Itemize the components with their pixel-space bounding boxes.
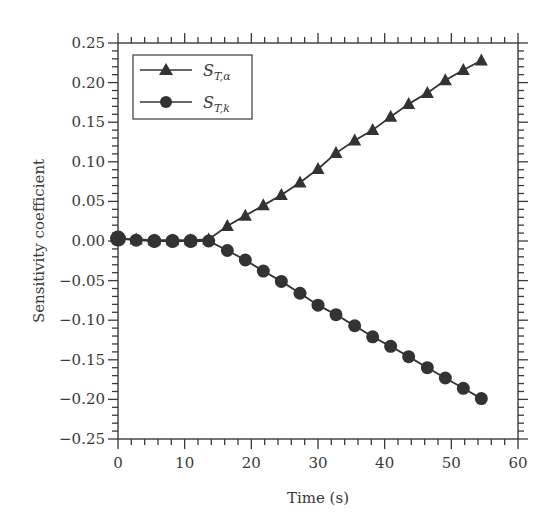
circle-marker-icon bbox=[221, 244, 234, 257]
y-tick-label: −0.20 bbox=[59, 390, 105, 408]
circle-marker-icon bbox=[330, 308, 343, 321]
y-tick-labels: −0.25−0.20−0.15−0.10−0.050.000.050.100.1… bbox=[59, 34, 105, 448]
triangle-marker-icon bbox=[366, 123, 379, 135]
x-tick-labels: 0102030405060 bbox=[113, 454, 527, 472]
triangle-marker-icon bbox=[457, 63, 470, 75]
markers-k bbox=[112, 232, 488, 405]
triangle-marker-icon bbox=[348, 133, 361, 145]
circle-marker-icon bbox=[239, 254, 252, 267]
triangle-marker-icon bbox=[402, 97, 415, 109]
triangle-marker-icon bbox=[221, 219, 234, 231]
triangle-marker-icon bbox=[421, 86, 434, 98]
x-tick-label: 30 bbox=[308, 454, 327, 472]
triangle-marker-icon bbox=[384, 110, 397, 122]
x-tick-label: 40 bbox=[375, 454, 394, 472]
circle-marker-icon bbox=[312, 299, 325, 312]
circle-marker-icon bbox=[166, 234, 180, 248]
legend-box bbox=[133, 55, 252, 119]
circle-marker-icon bbox=[294, 287, 307, 300]
triangle-marker-icon bbox=[294, 175, 307, 187]
y-tick-label: −0.10 bbox=[59, 311, 105, 329]
circle-marker-icon bbox=[366, 330, 379, 343]
triangle-marker-icon bbox=[257, 198, 270, 210]
y-tick-label: 0.20 bbox=[72, 74, 105, 92]
x-axis-label: Time (s) bbox=[287, 489, 349, 507]
circle-marker-icon bbox=[275, 275, 288, 288]
circle-marker-icon bbox=[348, 319, 361, 332]
triangle-marker-icon bbox=[330, 146, 343, 158]
circle-marker-icon bbox=[384, 340, 397, 353]
x-tick-label: 0 bbox=[113, 454, 123, 472]
x-tick-label: 50 bbox=[442, 454, 461, 472]
y-tick-label: 0.10 bbox=[72, 153, 105, 171]
triangle-marker-icon bbox=[239, 209, 252, 221]
triangle-marker-icon bbox=[275, 188, 288, 200]
y-axis-label: Sensitivity coefficient bbox=[30, 159, 48, 323]
circle-marker-icon bbox=[475, 392, 488, 405]
triangle-marker-icon bbox=[439, 73, 452, 85]
y-tick-label: −0.05 bbox=[59, 272, 105, 290]
markers-k-overlay bbox=[110, 231, 198, 248]
circle-marker-icon bbox=[147, 234, 161, 248]
circle-marker-icon bbox=[184, 234, 198, 248]
circle-marker-icon bbox=[421, 361, 434, 374]
y-tick-label: 0.25 bbox=[72, 34, 105, 52]
y-tick-label: 0.05 bbox=[72, 192, 105, 210]
circle-marker-icon bbox=[439, 372, 452, 385]
y-tick-label: 0.00 bbox=[72, 232, 105, 250]
series-k bbox=[118, 239, 481, 399]
circle-marker-icon bbox=[257, 265, 270, 278]
y-tick-label: −0.25 bbox=[59, 430, 105, 448]
x-tick-label: 10 bbox=[175, 454, 194, 472]
circle-marker-icon bbox=[402, 350, 415, 363]
legend: ST,α ST,k bbox=[133, 55, 252, 119]
circle-marker-icon bbox=[160, 96, 172, 108]
y-tick-label: 0.15 bbox=[72, 113, 105, 131]
circle-marker-icon bbox=[110, 231, 126, 247]
x-tick-label: 60 bbox=[508, 454, 527, 472]
circle-marker-icon bbox=[457, 382, 470, 395]
x-tick-label: 20 bbox=[242, 454, 261, 472]
sensitivity-chart: 0102030405060 −0.25−0.20−0.15−0.10−0.050… bbox=[0, 0, 557, 530]
triangle-marker-icon bbox=[475, 53, 488, 65]
y-tick-label: −0.15 bbox=[59, 351, 105, 369]
